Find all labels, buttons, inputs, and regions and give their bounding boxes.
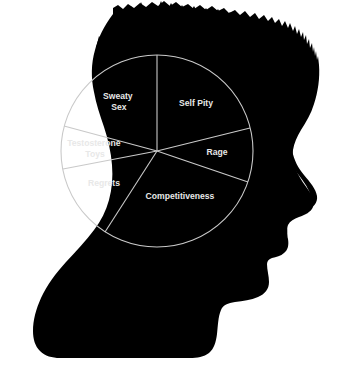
pie-label-rage: Rage bbox=[206, 147, 227, 157]
image-canvas: Self Pity Sweaty Sex Testosterone Toys R… bbox=[0, 0, 339, 371]
head-pie-chart-illustration: Self Pity Sweaty Sex Testosterone Toys R… bbox=[0, 0, 339, 371]
pie-label-self-pity: Self Pity bbox=[179, 98, 213, 108]
pie-label-competitiveness: Competitiveness bbox=[146, 191, 215, 201]
pie-label-regrets: Regrets bbox=[88, 178, 120, 188]
